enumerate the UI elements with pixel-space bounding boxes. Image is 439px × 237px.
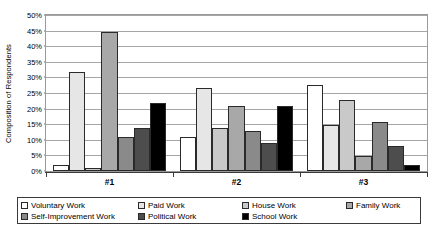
bar: [307, 85, 323, 171]
bars-layer: [46, 15, 427, 171]
bar: [53, 165, 69, 171]
legend-swatch-icon: [346, 202, 353, 209]
legend-item[interactable]: Self-Improvement Work: [21, 212, 115, 221]
legend-item[interactable]: House Work: [242, 201, 296, 210]
bar: [339, 100, 355, 171]
y-axis-tick-label: 35%: [27, 57, 42, 66]
y-axis-tick-label: 20%: [27, 104, 42, 113]
bar: [85, 168, 101, 171]
legend-label: Political Work: [148, 212, 196, 221]
legend-swatch-icon: [21, 202, 28, 209]
y-axis-tick-label: 15%: [27, 120, 42, 129]
y-axis-tick-label: 10%: [27, 135, 42, 144]
bar: [404, 165, 420, 171]
bar: [323, 125, 339, 171]
bar-group: [300, 15, 427, 171]
y-axis-tick-label: 50%: [27, 11, 42, 20]
bar: [388, 146, 404, 171]
legend-row: Self-Improvement WorkPolitical WorkSchoo…: [21, 211, 417, 222]
x-axis-category-label: #1: [105, 177, 114, 187]
bar-group: [46, 15, 173, 171]
y-axis-tick-label: 25%: [27, 89, 42, 98]
y-axis-title-label: Composition of Respondents: [4, 44, 13, 143]
bar-group: [173, 15, 300, 171]
bar: [101, 32, 117, 171]
legend-item[interactable]: Political Work: [138, 212, 196, 221]
legend-item[interactable]: School Work: [242, 212, 297, 221]
bar: [355, 156, 371, 171]
chart-legend: Voluntary WorkPaid WorkHouse WorkFamily …: [17, 197, 421, 224]
legend-swatch-icon: [138, 213, 145, 220]
legend-item[interactable]: Paid Work: [138, 201, 185, 210]
legend-item[interactable]: Voluntary Work: [21, 201, 85, 210]
bar: [150, 103, 166, 171]
bar: [69, 72, 85, 171]
bar: [196, 88, 212, 171]
legend-label: Paid Work: [148, 201, 185, 210]
legend-swatch-icon: [242, 213, 249, 220]
bar-chart: Composition of Respondents 0%5%10%15%20%…: [0, 0, 439, 237]
y-axis-tick-label: 40%: [27, 42, 42, 51]
x-axis-category-label: #3: [359, 177, 368, 187]
legend-swatch-icon: [21, 213, 28, 220]
y-axis-tick-labels: 0%5%10%15%20%25%30%35%40%45%50%: [14, 14, 44, 172]
bar: [261, 143, 277, 171]
legend-label: School Work: [252, 212, 297, 221]
bar: [118, 137, 134, 171]
legend-label: Voluntary Work: [31, 201, 85, 210]
y-axis-tick-label: 5%: [31, 151, 42, 160]
bar: [228, 106, 244, 171]
legend-swatch-icon: [138, 202, 145, 209]
legend-label: Self-Improvement Work: [31, 212, 115, 221]
y-axis-tick-label: 45%: [27, 26, 42, 35]
legend-label: House Work: [252, 201, 296, 210]
x-axis-category-label: #2: [232, 177, 241, 187]
bar: [277, 106, 293, 171]
bar: [134, 128, 150, 171]
legend-swatch-icon: [242, 202, 249, 209]
legend-item[interactable]: Family Work: [346, 201, 400, 210]
bar: [180, 137, 196, 171]
bar: [212, 128, 228, 171]
legend-row: Voluntary WorkPaid WorkHouse WorkFamily …: [21, 200, 417, 211]
x-axis-category-labels: #1#2#3: [45, 177, 428, 191]
bar: [372, 122, 388, 171]
bar: [245, 131, 261, 171]
y-axis-tick-label: 30%: [27, 73, 42, 82]
y-axis-tick-label: 0%: [31, 167, 42, 176]
legend-label: Family Work: [356, 201, 400, 210]
